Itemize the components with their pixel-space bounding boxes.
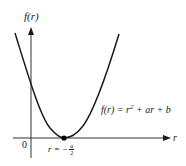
x-axis-label: r	[173, 133, 177, 143]
y-axis-label: f(r)	[24, 11, 39, 22]
vertex-fraction: a2	[69, 143, 74, 156]
fraction-denominator: 2	[70, 150, 73, 156]
origin-label: 0	[22, 140, 27, 150]
curve-equation-label: f(r) = r2 + ar + b	[101, 104, 171, 115]
fraction-numerator: a	[69, 143, 74, 150]
vertex-prefix: r = −	[48, 144, 68, 154]
y-axis-arrow-icon	[28, 27, 34, 35]
equation-rhs: + ar + b	[133, 104, 170, 115]
graph-canvas	[0, 0, 186, 166]
x-axis-arrow-icon	[163, 135, 171, 141]
vertex-label: r = −a2	[48, 143, 74, 156]
vertex-point	[61, 135, 66, 140]
equation-lhs: f(r) = r	[101, 104, 130, 115]
parabola-diagram: f(r) f(r) = r2 + ar + b r 0 r = −a2	[0, 0, 186, 166]
